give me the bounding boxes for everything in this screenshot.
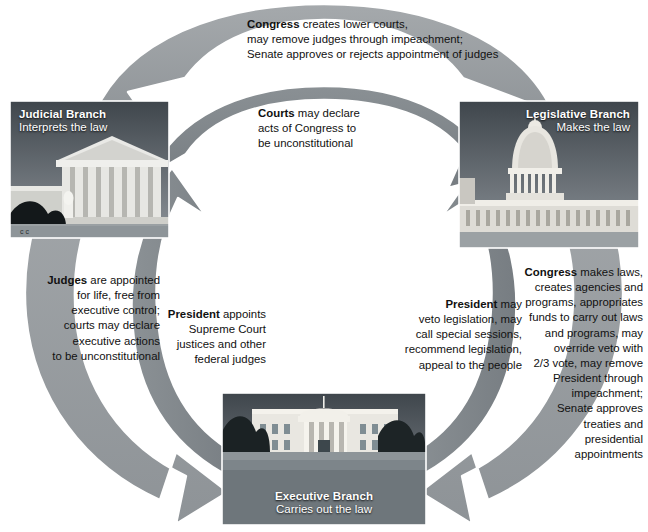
executive-branch-role: Carries out the law: [222, 503, 426, 516]
legislative-branch-panel: Legislative Branch Makes the law: [459, 101, 639, 248]
legislative-branch-caption: Legislative Branch Makes the law: [526, 108, 630, 134]
executive-branch-panel: Executive Branch Carries out the law: [222, 393, 426, 525]
label-line: justices and other: [148, 337, 266, 352]
label-line: appointments: [495, 447, 643, 462]
label-line: Courts may declare: [258, 106, 408, 121]
label-line: executive control;: [8, 303, 160, 318]
label-line: Senate approves: [495, 401, 643, 416]
executive-branch-name: Executive Branch: [222, 490, 426, 503]
label-line: impeachment;: [495, 386, 643, 401]
label-line: programs, appropriates: [495, 295, 643, 310]
label-line: for life, free from: [8, 288, 160, 303]
label-president-over-courts: President appointsSupreme Courtjustices …: [148, 307, 266, 368]
label-line: Congress creates lower courts,: [247, 17, 537, 32]
judicial-branch-caption: Judicial Branch Interprets the law: [19, 108, 169, 134]
checks-and-balances-diagram: c c: [0, 0, 648, 532]
label-line: federal judges: [148, 352, 266, 367]
legislative-branch-name: Legislative Branch: [526, 108, 630, 121]
label-line: President appoints: [148, 307, 266, 322]
label-line: creates agencies and: [495, 280, 643, 295]
label-courts-over-congress: Courts may declareacts of Congress tobe …: [258, 106, 408, 151]
label-line: funds to carry out laws: [495, 310, 643, 325]
label-line: Judges are appointed: [8, 273, 160, 288]
label-line: override veto with: [495, 341, 643, 356]
label-line: may remove judges through impeachment;: [247, 32, 537, 47]
legislative-branch-role: Makes the law: [526, 121, 630, 134]
label-line: presidential: [495, 432, 643, 447]
label-line: Supreme Court: [148, 322, 266, 337]
label-line: to be unconstitutional: [8, 349, 160, 364]
label-line: Senate approves or rejects appointment o…: [247, 47, 537, 62]
label-line: executive actions: [8, 334, 160, 349]
judicial-branch-name: Judicial Branch: [19, 108, 169, 121]
executive-branch-caption: Executive Branch Carries out the law: [222, 490, 426, 516]
label-line: be unconstitutional: [258, 136, 408, 151]
judicial-branch-role: Interprets the law: [19, 121, 169, 134]
label-congress-over-courts: Congress creates lower courts,may remove…: [247, 17, 537, 62]
label-line: courts may declare: [8, 318, 160, 333]
label-line: and programs, may: [495, 326, 643, 341]
label-line: treaties and: [495, 417, 643, 432]
label-congress-over-president: Congress makes laws,creates agencies and…: [495, 265, 643, 462]
label-line: acts of Congress to: [258, 121, 408, 136]
label-line: 2/3 vote, may remove: [495, 356, 643, 371]
label-line: President through: [495, 371, 643, 386]
label-line: Congress makes laws,: [495, 265, 643, 280]
judicial-branch-panel: Judicial Branch Interprets the law: [10, 101, 169, 238]
label-judges-over-president: Judges are appointedfor life, free frome…: [8, 273, 160, 364]
